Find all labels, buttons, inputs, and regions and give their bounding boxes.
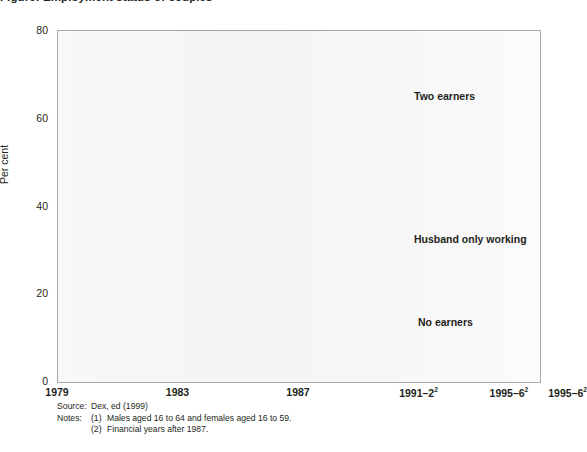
figure-title: Figure: Employment status of couples (0, 0, 562, 5)
x-tick-footnote-marker: 2 (525, 386, 529, 393)
x-axis-tick-label: 1979 (45, 386, 68, 398)
x-axis-tick-label: 1983 (166, 386, 189, 398)
x-axis-tick-label: 1991–22 (399, 386, 438, 399)
y-axis-tick-label: 40 (14, 201, 48, 211)
notes-label-spacer (57, 424, 91, 436)
series-label-two-earners: Two earners (414, 90, 475, 102)
series-label-no-earners: No earners (418, 316, 473, 328)
x-axis-tick-label: 1995–62 (548, 386, 587, 399)
series-label-husband-only: Husband only working (414, 233, 527, 245)
note-row-1: Notes: (1) Males aged 16 to 64 and femal… (57, 413, 527, 425)
source-row: Source: Dex, ed (1999) (57, 401, 527, 413)
note-1-text: Males aged 16 to 64 and females aged 16 … (107, 413, 527, 425)
plot-area (57, 30, 541, 383)
source-label: Source: (57, 401, 91, 413)
y-axis-tick-label: 20 (14, 288, 48, 298)
note-row-2: (2) Financial years after 1987. (57, 424, 527, 436)
y-axis-tick-label: 60 (14, 113, 48, 123)
note-2-number: (2) (91, 424, 107, 436)
x-axis-tick-label: 1995–62 (490, 386, 529, 399)
notes-label: Notes: (57, 413, 91, 425)
x-axis-tick-label: 1987 (286, 386, 309, 398)
x-tick-footnote-marker: 2 (434, 386, 438, 393)
note-2-text: Financial years after 1987. (107, 424, 527, 436)
y-axis-tick-label: 0 (14, 376, 48, 386)
note-1-number: (1) (91, 413, 107, 425)
y-axis-title: Per cent (0, 145, 10, 184)
figure-footer: Source: Dex, ed (1999) Notes: (1) Males … (57, 401, 527, 436)
source-text: Dex, ed (1999) (91, 401, 527, 413)
x-tick-footnote-marker: 2 (583, 386, 587, 393)
y-axis-tick-label: 80 (14, 25, 48, 35)
plot-background (58, 31, 540, 382)
